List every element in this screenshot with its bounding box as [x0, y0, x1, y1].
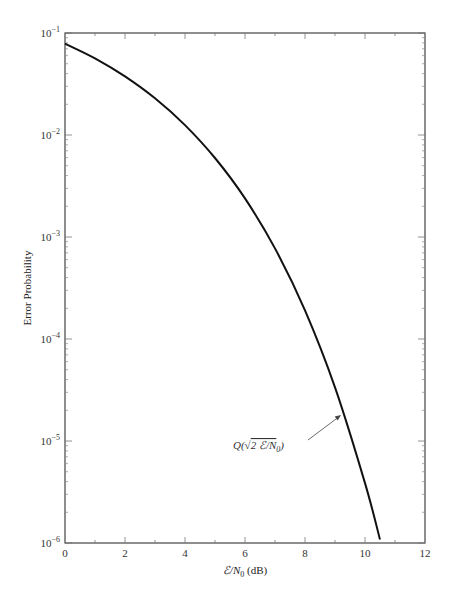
x-tick-label: 8: [302, 547, 308, 559]
x-tick-label: 10: [360, 547, 372, 559]
x-tick-label: 2: [122, 547, 128, 559]
chart: 02468101210−110−210−310−410−510−6 Q(√2 ℰ…: [0, 0, 449, 598]
x-tick-label: 4: [182, 547, 188, 559]
plot-frame: [65, 33, 425, 543]
axis-ticks: [65, 33, 425, 543]
y-axis-label: Error Probability: [21, 250, 33, 325]
x-tick-label: 6: [242, 547, 248, 559]
x-tick-label: 12: [420, 547, 431, 559]
x-axis-label: ℰ/N0 (dB): [223, 564, 268, 579]
y-tick-label: 10−1: [40, 25, 60, 39]
y-tick-label: 10−2: [40, 127, 60, 141]
y-tick-label: 10−4: [40, 331, 60, 345]
tick-labels: 02468101210−110−210−310−410−510−6: [40, 25, 430, 559]
annotation-arrow: [308, 416, 340, 440]
y-tick-label: 10−6: [40, 535, 60, 549]
y-tick-label: 10−5: [40, 433, 60, 447]
error-probability-curve: [65, 44, 380, 540]
x-tick-label: 0: [62, 547, 68, 559]
curve-annotation: Q(√2 ℰ/N0): [233, 415, 341, 454]
y-tick-label: 10−3: [40, 229, 60, 243]
plot-border: [65, 33, 425, 543]
annotation-label: Q(√2 ℰ/N0): [233, 439, 284, 454]
